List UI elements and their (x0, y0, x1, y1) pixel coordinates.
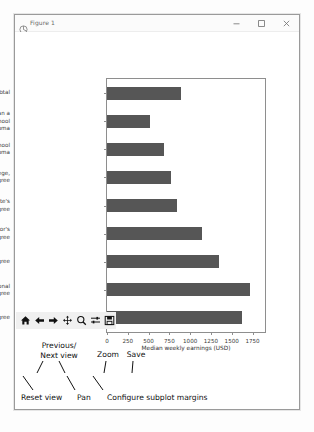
y-axis-label: Total (0, 89, 10, 96)
y-axis-label: Master's degree (0, 258, 10, 265)
minimize-button[interactable] (224, 15, 249, 32)
y-axis-label: Some college, no degree (0, 170, 10, 184)
y-axis-label: High school diploma (0, 142, 10, 156)
annotation-subplot-margins: Configure subplot margins (107, 393, 208, 403)
y-axis-label: Doctoral degree (0, 314, 10, 321)
y-axis-label: Professional degree (0, 283, 10, 297)
y-axis-label: Bachelor's degree (0, 226, 10, 240)
matplotlib-figure-icon (19, 19, 28, 28)
figure-window: Figure 1 (14, 14, 300, 410)
window-titlebar[interactable]: Figure 1 (15, 15, 299, 32)
annotation-leader-lines-top (15, 32, 301, 380)
annotation-pan: Pan (77, 393, 91, 403)
window-title: Figure 1 (30, 19, 55, 26)
annotation-reset-view: Reset view (21, 393, 62, 403)
maximize-button[interactable] (249, 15, 274, 32)
y-axis-label: Associate's degree (0, 198, 10, 212)
figure-canvas[interactable]: TotalLess than a high school diplomaHigh… (15, 32, 299, 363)
close-button[interactable] (274, 15, 299, 32)
y-axis-label: Less than a high school diploma (0, 110, 10, 132)
screenshot-root: Figure 1 (0, 0, 314, 432)
window-controls (224, 15, 299, 32)
